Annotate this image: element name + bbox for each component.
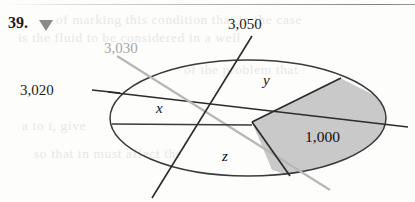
chord-line-mid-horizontal xyxy=(112,124,252,125)
chord-label-3020: 3,020 xyxy=(20,82,54,99)
chord-line-3050 xyxy=(152,36,252,198)
chord-label-3030: 3,030 xyxy=(104,40,138,57)
chord-label-3050: 3,050 xyxy=(228,16,262,33)
region-label-1000: 1,000 xyxy=(305,128,340,146)
region-label-z: z xyxy=(222,148,228,165)
region-label-y: y xyxy=(263,72,270,89)
region-label-x: x xyxy=(156,100,163,117)
figure-page: of marking this condition that in the ca… xyxy=(0,0,415,202)
ellipse-diagram xyxy=(0,0,415,202)
leader-line-3020 xyxy=(92,90,120,93)
